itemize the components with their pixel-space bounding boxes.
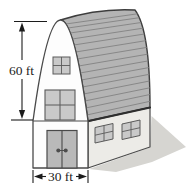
barn-door xyxy=(47,131,77,169)
down-arrow-icon xyxy=(19,110,25,119)
side-window-2 xyxy=(122,120,140,140)
up-arrow-icon xyxy=(19,23,25,32)
height-label: 60 ft xyxy=(9,63,34,78)
front-large-window xyxy=(45,90,75,120)
right-arrow-icon xyxy=(79,173,88,179)
left-arrow-icon xyxy=(34,173,43,179)
front-small-window xyxy=(53,57,70,74)
barn-diagram-figure: 60 ft 30 ft xyxy=(0,0,190,194)
width-label: 30 ft xyxy=(48,169,73,184)
barn-diagram-canvas: 60 ft 30 ft xyxy=(0,0,190,194)
side-window-1 xyxy=(95,124,113,144)
